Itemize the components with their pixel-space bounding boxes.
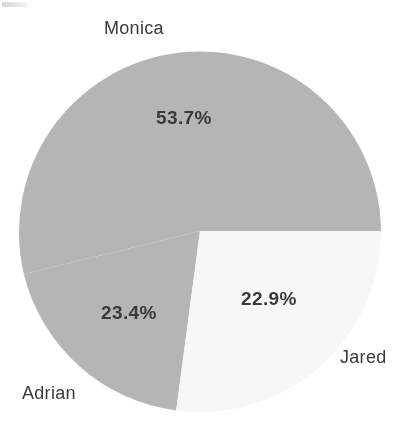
slice-value-monica: 53.7% [156,107,212,129]
pie-slice-jared[interactable] [176,231,381,412]
slice-category-jared: Jared [340,347,387,368]
slice-value-adrian: 23.4% [101,302,157,324]
slice-category-monica: Monica [104,18,164,39]
slice-value-jared: 22.9% [241,288,297,310]
pie-chart-figure: 53.7% 23.4% 22.9% Monica Adrian Jared [0,0,411,426]
slice-category-adrian: Adrian [22,383,76,404]
